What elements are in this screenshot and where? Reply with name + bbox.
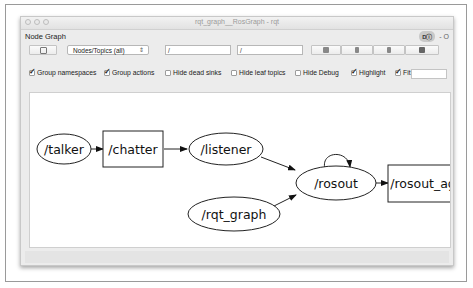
select-arrows-icon: ⇕ [139, 46, 144, 55]
save-image-icon [419, 47, 425, 53]
plugin-title: Node Graph [25, 32, 66, 41]
load-dot-button[interactable] [311, 45, 341, 55]
checkbox-icon [395, 70, 401, 76]
checkbox-icon [231, 70, 237, 76]
checkbox-icon [104, 70, 110, 76]
checkbox-icon [165, 70, 171, 76]
save-svg-icon [387, 47, 391, 53]
edge-listener-rosout [261, 157, 295, 170]
save-svg-button[interactable] [373, 45, 405, 55]
topic-filter-input[interactable]: / [237, 45, 303, 55]
node-label: /rosout [314, 176, 358, 191]
node-label: /chatter [108, 142, 158, 157]
fit-field[interactable] [411, 69, 447, 79]
save-dot-button[interactable] [341, 45, 373, 55]
node-label: /talker [44, 142, 85, 157]
hide-dead-sinks-checkbox[interactable]: Hide dead sinks [165, 69, 221, 76]
graph-type-select[interactable]: Nodes/Topics (all) ⇕ [67, 45, 149, 55]
checkbox-icon [351, 70, 357, 76]
edge-rqtgraph-rosout [272, 195, 296, 207]
node-label: /rosout_agg [390, 176, 450, 191]
checkbox-label: Hide Debug [303, 69, 339, 76]
hide-debug-checkbox[interactable]: Hide Debug [295, 69, 339, 76]
hide-leaf-topics-checkbox[interactable]: Hide leaf topics [231, 69, 285, 76]
checkbox-icon [295, 70, 301, 76]
checkbox-label: Hide dead sinks [173, 69, 221, 76]
checkbox-label: Hide leaf topics [239, 69, 285, 76]
refresh-button[interactable] [29, 45, 57, 55]
namespace-filter-input[interactable]: / [165, 45, 231, 55]
window-title: rqt_graph__RosGraph - rqt [21, 18, 453, 25]
group-actions-checkbox[interactable]: Group actions [104, 69, 154, 76]
plugin-header: Node Graph Dⓘ - O [25, 32, 449, 44]
checkbox-label: Fit [403, 69, 411, 76]
plugin-controls: Dⓘ - O [419, 31, 449, 42]
graph-canvas[interactable]: /talker /chatter /listener /rosout /roso… [29, 92, 451, 248]
fit-checkbox[interactable]: Fit [395, 69, 411, 76]
toolbar: Nodes/Topics (all) ⇕ / / [29, 45, 447, 56]
load-dot-icon [323, 47, 329, 53]
checkbox-label: Group actions [112, 69, 154, 76]
save-dot-icon [355, 47, 359, 53]
plugin-close-button[interactable]: - O [439, 33, 449, 40]
ros-graph: /talker /chatter /listener /rosout /roso… [30, 93, 450, 247]
checkbox-icon [29, 70, 35, 76]
options-bar: Group namespaces Group actions Hide dead… [29, 69, 447, 81]
title-bar: rqt_graph__RosGraph - rqt [21, 17, 453, 30]
highlight-checkbox[interactable]: Highlight [351, 69, 385, 76]
debug-info-icon[interactable]: Dⓘ [419, 31, 435, 42]
save-image-button[interactable] [405, 45, 439, 55]
checkbox-label: Group namespaces [37, 69, 96, 76]
node-label: /rqt_graph [202, 207, 267, 222]
group-namespaces-checkbox[interactable]: Group namespaces [29, 69, 96, 76]
status-strip [25, 251, 449, 263]
rqt-window: rqt_graph__RosGraph - rqt Node Graph Dⓘ … [20, 16, 454, 266]
checkbox-label: Highlight [359, 69, 385, 76]
node-label: /listener [200, 142, 252, 157]
graph-type-value: Nodes/Topics (all) [73, 47, 125, 54]
refresh-icon [40, 47, 47, 54]
